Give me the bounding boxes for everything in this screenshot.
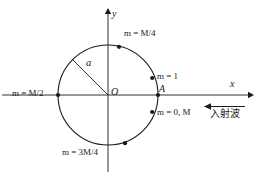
label-m-quarter: m = M/4 (124, 29, 156, 38)
y-axis-label: y (112, 9, 116, 19)
point-dot-m-one (150, 76, 154, 80)
label-m-zero-m: m = 0, M (157, 108, 191, 117)
point-dot-m-quarter (117, 45, 121, 49)
radius-label: a (86, 58, 91, 69)
origin-label: O (111, 87, 118, 97)
geometry-diagram: y x O a m = M/4 m = M/2 m = 1 A m = 0, M… (0, 0, 257, 177)
label-m-half: m = M/2 (12, 89, 44, 98)
label-m-three-quarter: m = 3M/4 (62, 148, 98, 157)
point-dot-m-three-quarter (123, 141, 127, 145)
y-axis-arrowhead (105, 8, 111, 14)
incident-wave-label: 入射波 (210, 109, 240, 119)
x-axis-label: x (230, 79, 234, 89)
label-point-a: A (159, 84, 165, 94)
x-axis-arrowhead (248, 92, 254, 98)
point-dot-m-half (56, 93, 60, 97)
label-m-one: m = 1 (157, 72, 178, 81)
point-dot-m-zero-m (150, 110, 154, 114)
